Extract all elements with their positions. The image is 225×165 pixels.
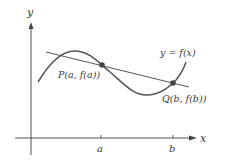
point-p-label: P(a, f(a)) xyxy=(57,69,100,80)
point-q-label: Q(b, f(b)) xyxy=(162,93,207,104)
curve-label: y = f(x) xyxy=(159,47,196,58)
x-axis-arrow-icon xyxy=(189,136,197,141)
tick-label-a: a xyxy=(97,143,103,154)
diagram-canvas: y x a b y = f(x) P(a, f(a)) Q(b, f(b)) xyxy=(0,0,225,165)
y-axis-arrow-icon xyxy=(29,22,34,29)
point-q xyxy=(170,80,176,86)
point-p xyxy=(99,62,105,68)
y-axis-label: y xyxy=(26,6,34,19)
x-axis-label: x xyxy=(200,132,207,145)
tick-label-b: b xyxy=(169,143,175,154)
